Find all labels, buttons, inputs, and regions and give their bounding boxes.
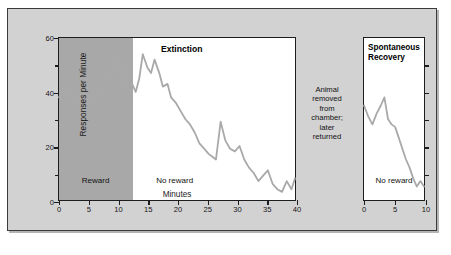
x-tick-mark — [208, 200, 209, 205]
x-tick-mark — [178, 200, 179, 205]
x-tick-mark — [59, 200, 60, 205]
recovery-y-tick-mark — [424, 65, 429, 66]
recovery-x-tick-label: 10 — [422, 205, 430, 214]
y-tick-label: 40 — [46, 88, 54, 97]
extinction-plot: Extinction Reward No reward Responses pe… — [58, 37, 296, 201]
x-tick-label: 20 — [174, 205, 182, 214]
no-reward-region-label: No reward — [156, 176, 193, 185]
x-tick-mark — [89, 200, 90, 205]
x-tick-mark — [148, 200, 149, 205]
y-axis-title: Responses per Minute — [79, 25, 88, 165]
x-tick-mark — [238, 200, 239, 205]
x-tick-mark — [119, 200, 120, 205]
spontaneous-recovery-plot: Spontaneous Recovery No reward 0510 — [363, 37, 425, 201]
annotation-line-5: later — [299, 123, 355, 132]
x-tick-label: 30 — [233, 205, 241, 214]
figure-frame: Extinction Reward No reward Responses pe… — [7, 8, 437, 231]
annotation-line-4: chamber; — [299, 113, 355, 122]
reward-region-label: Reward — [82, 176, 110, 185]
recovery-title: Spontaneous Recovery — [368, 43, 420, 62]
recovery-x-tick-label: 0 — [362, 205, 366, 214]
x-tick-mark — [297, 200, 298, 205]
x-tick-label: 5 — [87, 205, 91, 214]
annotation-line-1: Animal — [299, 85, 355, 94]
recovery-title-line-1: Spontaneous — [368, 43, 420, 53]
recovery-x-tick-label: 5 — [393, 205, 397, 214]
y-tick-mark — [55, 120, 59, 121]
annotation-line-2: removed — [299, 94, 355, 103]
no-reward-region-label-right: No reward — [376, 176, 413, 185]
recovery-title-line-2: Recovery — [368, 53, 420, 63]
recovery-y-tick-mark — [424, 120, 429, 121]
x-tick-label: 10 — [114, 205, 122, 214]
x-axis-title: Minutes — [58, 190, 296, 199]
figure-root: Extinction Reward No reward Responses pe… — [0, 0, 451, 255]
recovery-x-tick-mark — [364, 200, 365, 205]
y-tick-mark — [54, 147, 59, 148]
extinction-title: Extinction — [161, 44, 203, 54]
y-tick-mark — [54, 93, 59, 94]
annotation-animal-removed: Animal removed from chamber; later retur… — [299, 85, 355, 141]
y-tick-label: 20 — [46, 143, 54, 152]
y-tick-mark — [55, 65, 59, 66]
recovery-y-tick-mark — [424, 147, 429, 148]
y-tick-label: 0 — [50, 198, 54, 207]
x-tick-label: 0 — [57, 205, 61, 214]
annotation-line-6: returned — [299, 132, 355, 141]
recovery-y-tick-mark — [424, 175, 429, 176]
y-tick-mark — [54, 38, 59, 39]
recovery-x-tick-mark — [426, 200, 427, 205]
x-tick-label: 25 — [204, 205, 212, 214]
y-tick-mark — [55, 175, 59, 176]
annotation-line-3: from — [299, 104, 355, 113]
x-tick-label: 40 — [293, 205, 301, 214]
x-tick-label: 15 — [144, 205, 152, 214]
recovery-x-tick-mark — [395, 200, 396, 205]
x-tick-mark — [267, 200, 268, 205]
recovery-y-tick-mark — [424, 93, 429, 94]
y-tick-label: 60 — [46, 34, 54, 43]
x-tick-label: 35 — [263, 205, 271, 214]
